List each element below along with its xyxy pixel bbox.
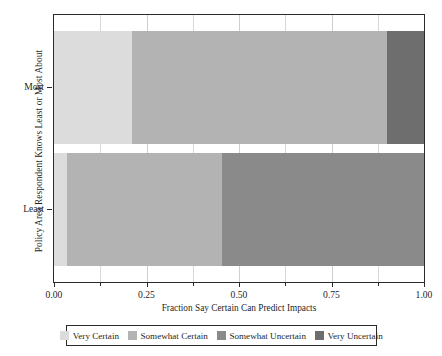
- y-tick-label: Most: [0, 81, 44, 92]
- chart-figure: Policy Area Respondent Knows Least or Mo…: [0, 0, 442, 356]
- x-tick-label: 0.50: [219, 289, 259, 300]
- x-tick-mark: [332, 283, 333, 287]
- legend-label: Somewhat Uncertain: [229, 331, 306, 341]
- bar-segment: [67, 153, 222, 266]
- bar-segment: [132, 31, 387, 144]
- legend-item[interactable]: Very Certain: [60, 331, 119, 341]
- x-minor-tick-mark: [378, 283, 379, 286]
- x-tick-label: 0.25: [127, 289, 167, 300]
- x-minor-tick-mark: [285, 283, 286, 286]
- legend-item[interactable]: Somewhat Certain: [128, 331, 208, 341]
- y-axis-title: Policy Area Respondent Knows Least or Mo…: [34, 16, 44, 286]
- legend-swatch-icon: [217, 331, 226, 340]
- legend-label: Very Uncertain: [327, 331, 382, 341]
- x-tick-mark: [239, 283, 240, 287]
- x-axis-title: Fraction Say Certain Can Predict Impacts: [53, 303, 425, 313]
- y-tick-label: Least: [0, 203, 44, 214]
- x-tick-mark: [424, 283, 425, 287]
- bar-segment: [222, 153, 424, 266]
- y-tick-mark: [47, 209, 52, 210]
- plot-area: [53, 14, 425, 283]
- legend-item[interactable]: Very Uncertain: [315, 331, 383, 341]
- y-tick-mark: [47, 87, 52, 88]
- bar-segment: [54, 153, 67, 266]
- bar-segment: [54, 31, 132, 144]
- legend-swatch-icon: [128, 331, 137, 340]
- x-tick-mark: [54, 283, 55, 287]
- x-tick-mark: [147, 283, 148, 287]
- legend-swatch-icon: [315, 331, 324, 340]
- bar-most: [54, 31, 424, 144]
- bar-least: [54, 153, 424, 266]
- legend-label: Somewhat Certain: [140, 331, 207, 341]
- x-tick-label: 1.00: [404, 289, 442, 300]
- bar-segment: [387, 31, 424, 144]
- x-tick-label: 0.00: [34, 289, 74, 300]
- legend-label: Very Certain: [73, 331, 119, 341]
- legend-swatch-icon: [60, 331, 69, 340]
- x-minor-tick-mark: [100, 283, 101, 286]
- legend-item[interactable]: Somewhat Uncertain: [217, 331, 306, 341]
- chart-legend: Very CertainSomewhat CertainSomewhat Unc…: [66, 325, 377, 346]
- x-minor-tick-mark: [193, 283, 194, 286]
- x-tick-label: 0.75: [312, 289, 352, 300]
